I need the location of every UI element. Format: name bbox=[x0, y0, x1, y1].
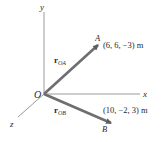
origin-label: O bbox=[34, 89, 41, 100]
axes bbox=[18, 12, 140, 117]
vector-r-ob-subscript: OB bbox=[58, 110, 66, 116]
point-a-label: A bbox=[94, 33, 101, 43]
vector-r-oa-subscript: OA bbox=[58, 60, 66, 66]
z-axis-label: z bbox=[9, 119, 14, 129]
position-vector-diagram: y x z O A (6, 6, −3) m B (10, −2, 3) m r… bbox=[0, 0, 164, 142]
point-b-coords: (10, −2, 3) m bbox=[103, 105, 148, 115]
point-a-coords: (6, 6, −3) m bbox=[103, 40, 144, 50]
vector-r-oa bbox=[44, 45, 98, 94]
vector-r-oa-label: rOA bbox=[54, 55, 66, 66]
y-axis-label: y bbox=[39, 2, 44, 12]
point-b-label: B bbox=[102, 124, 107, 134]
vector-r-ob-label: rOB bbox=[54, 105, 66, 116]
x-axis-label: x bbox=[142, 89, 147, 99]
